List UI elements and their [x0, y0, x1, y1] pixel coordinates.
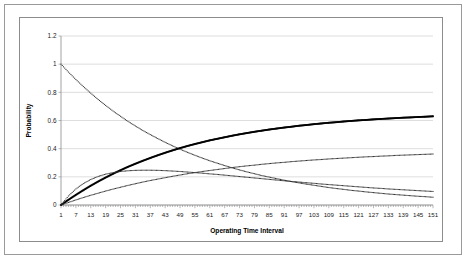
series-transient-state	[60, 170, 433, 206]
x-tick-label: 19	[102, 211, 109, 218]
probability-line-chart: 00.20.40.60.811.217131925313743495561677…	[20, 18, 442, 241]
x-tick-label: 25	[117, 211, 124, 218]
x-tick-label: 133	[383, 211, 394, 218]
x-tick-label: 67	[221, 211, 228, 218]
y-tick-label: 0	[53, 201, 57, 208]
series-dominant-state	[60, 115, 434, 205]
x-tick-label: 139	[398, 211, 409, 218]
x-tick-label: 37	[147, 211, 154, 218]
chart-plot-frame: 00.20.40.60.811.217131925313743495561677…	[19, 17, 443, 242]
y-tick-label: 1.2	[48, 32, 57, 39]
x-tick-label: 91	[281, 211, 288, 218]
y-tick-label: 1	[53, 60, 57, 67]
x-tick-label: 73	[236, 211, 243, 218]
x-tick-label: 13	[87, 211, 94, 218]
x-tick-label: 103	[309, 211, 320, 218]
x-axis-title: Operating Time Interval	[210, 227, 284, 235]
y-tick-label: 0.4	[48, 145, 57, 152]
x-tick-label: 115	[339, 211, 349, 218]
x-tick-label: 31	[132, 211, 139, 218]
y-tick-label: 0.8	[48, 89, 57, 96]
series-intermediate-state	[60, 153, 433, 205]
y-tick-label: 0.2	[48, 173, 57, 180]
x-tick-label: 151	[428, 211, 439, 218]
x-tick-label: 7	[74, 211, 78, 218]
x-tick-label: 55	[191, 211, 198, 218]
x-tick-label: 1	[59, 211, 63, 218]
y-axis-title: Probability	[25, 103, 33, 137]
x-tick-label: 49	[177, 211, 184, 218]
x-tick-label: 43	[162, 211, 169, 218]
x-tick-label: 109	[324, 211, 335, 218]
x-tick-label: 85	[266, 211, 273, 218]
x-tick-label: 145	[413, 211, 424, 218]
x-tick-label: 127	[368, 211, 379, 218]
x-tick-label: 61	[206, 211, 213, 218]
figure-outer-border: 00.20.40.60.811.217131925313743495561677…	[4, 4, 462, 255]
x-tick-label: 97	[296, 211, 303, 218]
y-tick-label: 0.6	[48, 117, 57, 124]
x-tick-label: 79	[251, 211, 258, 218]
x-tick-label: 121	[353, 211, 364, 218]
